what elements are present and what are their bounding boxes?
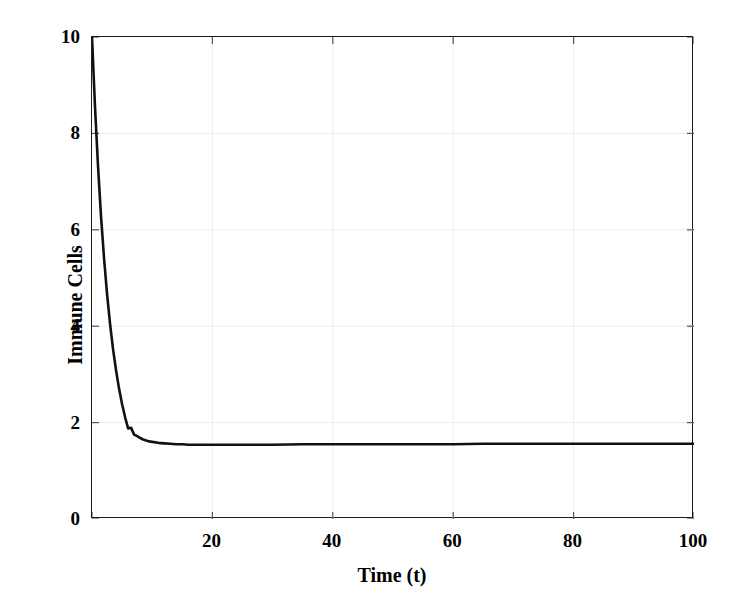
x-tick-label: 100 [679,531,708,550]
x-tick-label: 80 [563,531,582,550]
chart-figure: 0246810 20406080100 Immune Cells Time (t… [0,0,729,610]
x-tick-label: 20 [202,531,221,550]
x-tick-label: 60 [443,531,462,550]
plot-area [91,36,693,518]
plot-canvas [92,37,694,519]
x-tick-label: 40 [322,531,341,550]
x-axis-title: Time (t) [91,564,693,587]
y-tick-label: 2 [40,412,80,431]
grid-lines [92,37,694,519]
y-axis-title: Immune Cells [64,245,87,364]
y-tick-label: 8 [40,123,80,142]
y-tick-label: 6 [40,219,80,238]
data-series-line [92,37,694,445]
tick-marks [92,37,694,519]
y-tick-label: 10 [40,27,80,46]
y-tick-label: 0 [40,509,80,528]
